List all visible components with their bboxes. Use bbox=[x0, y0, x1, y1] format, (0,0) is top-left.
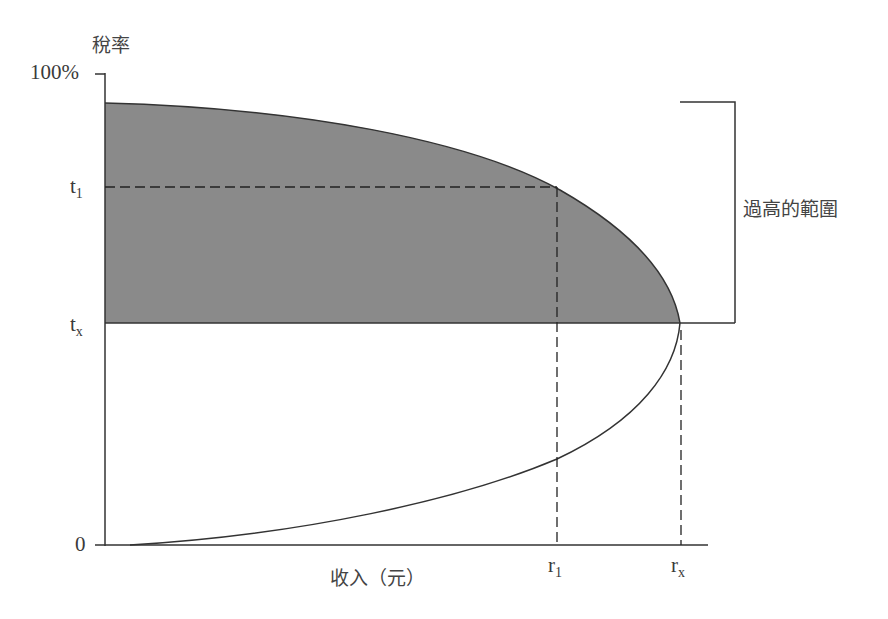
y-tick-label-100: 100% bbox=[30, 60, 79, 85]
y-axis-title: 稅率 bbox=[92, 30, 130, 57]
curve-lower bbox=[130, 323, 680, 545]
x-axis-title: 收入（元） bbox=[330, 563, 425, 590]
y-tick-label-tx: tx bbox=[70, 312, 83, 340]
y-tick-label-t1: t1 bbox=[70, 174, 83, 202]
laffer-diagram bbox=[0, 0, 888, 619]
r1-subscript: 1 bbox=[555, 565, 562, 580]
shaded-prohibitive-region bbox=[105, 103, 680, 323]
prohibitive-range-label: 過高的範圍 bbox=[743, 194, 838, 221]
x-tick-label-r1: r1 bbox=[548, 553, 562, 581]
rx-base: r bbox=[671, 553, 678, 577]
prohibitive-bracket bbox=[680, 102, 735, 323]
t1-subscript: 1 bbox=[76, 186, 83, 201]
tx-subscript: x bbox=[76, 324, 83, 339]
rx-subscript: x bbox=[678, 565, 685, 580]
x-tick-label-rx: rx bbox=[671, 553, 685, 581]
y-tick-label-zero: 0 bbox=[75, 532, 86, 557]
r1-base: r bbox=[548, 553, 555, 577]
